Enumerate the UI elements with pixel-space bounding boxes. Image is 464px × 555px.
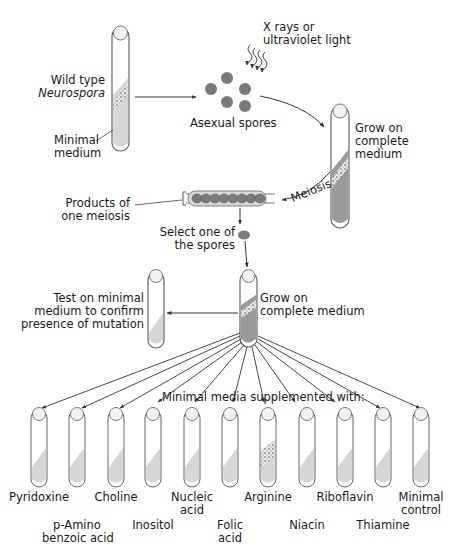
label-niacin: Niacin [272, 519, 342, 532]
label-arginine: Arginine [233, 491, 303, 504]
tube-inositol [145, 408, 161, 488]
select-text-2: the spores [140, 239, 235, 252]
label-thiamine: Thiamine [348, 519, 418, 532]
products-label: Products of one meiosis [40, 197, 130, 223]
minimal-control-text-2: control [386, 504, 456, 517]
label-pyridoxine: Pyridoxine [4, 491, 74, 504]
asexual-spores [205, 72, 251, 112]
label-choline: Choline [81, 491, 151, 504]
label-inositol: Inositol [118, 519, 188, 532]
supplemented-label: Minimal media supplemented with: [162, 391, 365, 404]
paba-text-2: benzoic acid [42, 532, 112, 545]
nucleic-acid-text: acid [157, 504, 227, 517]
products-text-2: one meiosis [40, 210, 130, 223]
test-text-3: presence of mutation [20, 318, 144, 331]
selected-spore [238, 231, 250, 240]
second-complete-tube [240, 270, 257, 348]
radiation-label: X rays or ultraviolet light [263, 21, 351, 47]
test-minimal-label: Test on minimal medium to confirm presen… [20, 292, 144, 331]
label-minimal-control: Minimal control [386, 491, 456, 517]
tube-thiamine [375, 408, 391, 488]
label-riboflavin: Riboflavin [310, 491, 380, 504]
medium-text: medium [54, 147, 101, 160]
tube-paba [69, 408, 85, 488]
minimal-medium-label: Minimal medium [54, 134, 101, 160]
select-spore-label: Select one of the spores [140, 226, 235, 252]
radiation-icon [247, 45, 267, 72]
tube-riboflavin [337, 408, 353, 488]
folic-acid-text: acid [195, 532, 265, 545]
tube-folic-acid [222, 408, 238, 488]
wild-type-tube [112, 26, 129, 151]
ascus [183, 191, 275, 206]
supplement-tubes [31, 408, 429, 488]
tube-choline [108, 408, 124, 488]
tube-arginine [260, 408, 276, 488]
arrow-to-second-tube [245, 241, 247, 267]
tube-pyridoxine [31, 408, 47, 488]
medium-text-2: medium [355, 148, 409, 161]
label-nucleic-acid: Nucleic acid [157, 491, 227, 517]
label-paba: p-Amino benzoic acid [42, 519, 112, 545]
tube-nucleic-acid [184, 408, 200, 488]
tube-minimal-control [413, 408, 429, 488]
tube-niacin [299, 408, 315, 488]
asexual-spores-label: Asexual spores [190, 117, 277, 130]
grow2-text-2: complete medium [260, 305, 365, 318]
wild-type-label: Wild type Neurospora [20, 74, 105, 100]
grow-complete-label: Grow on complete medium [355, 122, 409, 161]
uv-text: ultraviolet light [263, 34, 351, 47]
products-leader-line [135, 200, 182, 205]
label-folic-acid: Folic acid [195, 519, 265, 545]
neurospora-text: Neurospora [20, 87, 105, 100]
complete-medium-tube [331, 104, 349, 228]
grow2-label: Grow on complete medium [260, 292, 365, 318]
test-minimal-tube [148, 270, 164, 349]
